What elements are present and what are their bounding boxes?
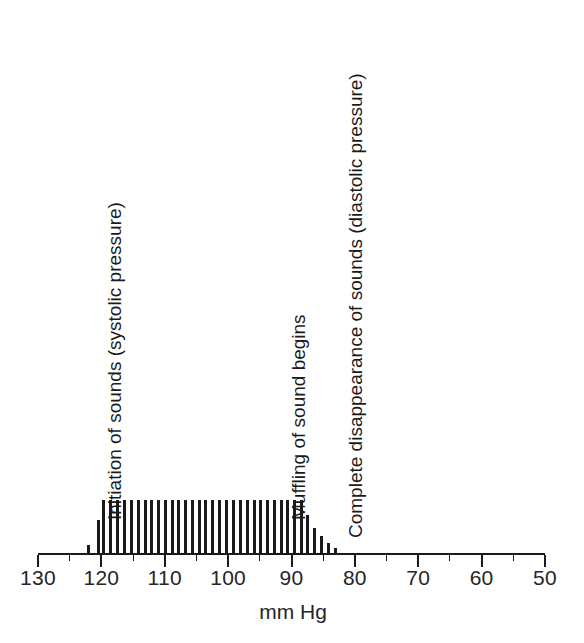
x-axis-minor-tick (259, 555, 260, 561)
bar (211, 500, 214, 553)
x-axis-minor-tick (133, 555, 134, 561)
bar (171, 500, 174, 553)
x-axis-minor-tick (196, 555, 197, 561)
bar (253, 500, 256, 553)
x-axis-tick-label: 120 (83, 566, 119, 590)
bar (198, 500, 201, 553)
bar (177, 500, 180, 553)
x-axis-minor-tick (386, 555, 387, 561)
x-axis-minor-tick (323, 555, 324, 561)
bar (130, 500, 133, 553)
muffling-annotation: Muffling of sound begins (289, 314, 308, 520)
x-axis-tick-label: 50 (533, 566, 557, 590)
bar (239, 500, 242, 553)
bar (191, 500, 194, 553)
bar (306, 515, 309, 553)
bar (164, 500, 167, 553)
x-axis-tick-label: 110 (148, 566, 182, 590)
x-axis-tick-label: 90 (280, 566, 304, 590)
bar (144, 500, 147, 553)
bar (157, 500, 160, 553)
bar (97, 520, 100, 553)
bar (320, 536, 323, 553)
bar (246, 500, 249, 553)
bar (184, 500, 187, 553)
x-axis-minor-tick (513, 555, 514, 561)
x-axis-tick-label: 130 (20, 566, 56, 590)
x-axis-tick-label: 100 (210, 566, 246, 590)
x-axis-minor-tick (69, 555, 70, 561)
x-axis-title-text: mm Hg (259, 600, 327, 623)
x-axis-title: mm Hg (0, 600, 584, 624)
bar (266, 500, 269, 553)
bar (259, 500, 262, 553)
systolic-annotation: Initiation of sounds (systolic pressure) (105, 202, 124, 520)
bar (204, 500, 207, 553)
x-axis-minor-tick (449, 555, 450, 561)
bar (87, 545, 90, 553)
bar (218, 500, 221, 553)
bar (273, 500, 276, 553)
x-axis-tick-label: 70 (406, 566, 430, 590)
bar (313, 528, 316, 553)
bar (225, 500, 228, 553)
plot-area: Initiation of sounds (systolic pressure)… (0, 0, 584, 556)
bar (327, 543, 330, 553)
bar (280, 500, 283, 553)
bar (150, 500, 153, 553)
bar (232, 500, 235, 553)
bar (137, 500, 140, 553)
blood-pressure-korotkoff-sounds-chart: Initiation of sounds (systolic pressure)… (0, 0, 584, 643)
x-axis-tick-label: 80 (343, 566, 367, 590)
x-axis-tick-label: 60 (470, 566, 494, 590)
diastolic-annotation: Complete disappearance of sounds (diasto… (346, 73, 365, 538)
